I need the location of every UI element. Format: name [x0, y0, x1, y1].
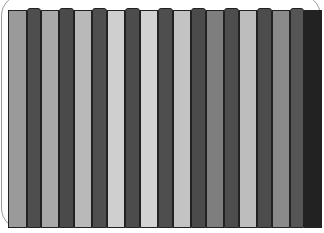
strip-16: [257, 8, 272, 228]
strip-12: [191, 8, 206, 228]
strip-8: [125, 8, 140, 228]
strip-7: [107, 10, 125, 228]
strip-17: [272, 10, 290, 228]
strip-3: [41, 10, 59, 228]
strip-6: [92, 8, 107, 228]
strip-5: [74, 10, 92, 228]
frame-mask-top: [12, 0, 312, 2]
strip-group: [8, 10, 322, 228]
strip-13: [206, 10, 224, 228]
strip-10: [158, 8, 173, 228]
strip-18: [290, 8, 304, 228]
strip-4: [59, 8, 74, 228]
strip-1: [8, 10, 27, 228]
strip-9: [140, 10, 158, 228]
strip-14: [224, 8, 239, 228]
strip-15: [239, 10, 257, 228]
strip-2: [27, 8, 41, 228]
strip-11: [173, 10, 191, 228]
strip-19: [304, 10, 322, 228]
